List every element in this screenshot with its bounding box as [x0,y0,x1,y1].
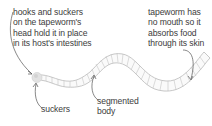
tapeworm-diagram: hooks and suckers on the tapeworm's head… [0,0,212,126]
segmented-body-label: segmented body [97,96,139,117]
label-line: suckers [41,104,70,114]
tapeworm-body [38,52,210,91]
label-line: no mouth so it [148,17,204,27]
label-line: on the tapeworm's [13,17,92,27]
no-mouth-label: tapeworm has no mouth so it absorbs food… [148,7,204,49]
label-line: in its host's intestines [13,38,92,48]
label-line: through its skin [148,38,204,48]
label-line: body [97,106,139,116]
label-line: absorbs food [148,28,204,38]
label-line: head hold it in place [13,28,92,38]
label-line: segmented [97,96,139,106]
tapeworm-head [32,73,42,83]
hooks-and-suckers-label: hooks and suckers on the tapeworm's head… [13,7,92,49]
label-line: tapeworm has [148,7,204,17]
label-line: hooks and suckers [13,7,92,17]
suckers-label: suckers [41,104,70,114]
